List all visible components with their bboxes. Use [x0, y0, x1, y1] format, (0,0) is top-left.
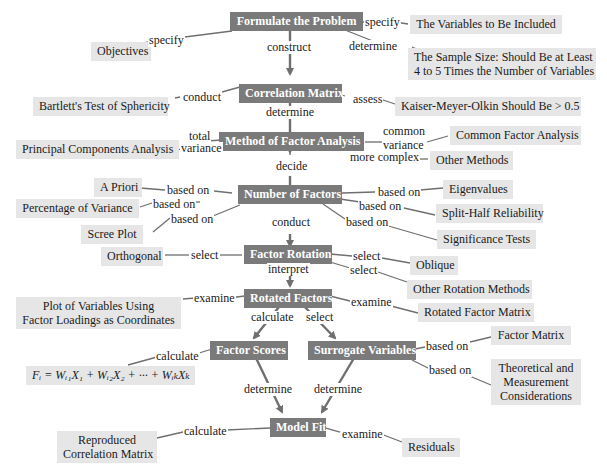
- edge-label-conduct-rotation: conduct: [271, 216, 311, 229]
- node-factor-scores[interactable]: Factor Scores: [210, 341, 288, 360]
- node-method-factor-analysis[interactable]: Method of Factor Analysis: [219, 132, 364, 151]
- node-surrogate-variables[interactable]: Surrogate Variables: [308, 341, 416, 360]
- edge-label-calculate-reproduced: calculate: [183, 425, 228, 438]
- edge-label-select-surrogate: select: [305, 311, 334, 324]
- reproduced-line-2: Correlation Matrix: [63, 447, 151, 461]
- leaf-kmo[interactable]: Kaiser-Meyer-Olkin Should Be > 0.5: [395, 97, 581, 116]
- edge-label-based-on-factor-matrix: based on: [425, 340, 469, 353]
- edge-label-decide: decide: [275, 160, 308, 173]
- edge-label-determine-fit-left: determine: [243, 383, 293, 396]
- plot-line-1: Plot of Variables Using: [22, 299, 175, 313]
- node-number-of-factors[interactable]: Number of Factors: [238, 185, 342, 204]
- edge-label-calculate-formula: calculate: [155, 350, 200, 363]
- edge-label-select-orthogonal: select: [190, 249, 219, 262]
- edge-label-based-on-sig: based on: [345, 216, 389, 229]
- edge-label-specify-objectives: specify: [148, 34, 185, 47]
- leaf-principal-components[interactable]: Principal Components Analysis: [16, 140, 179, 159]
- node-formulate-problem[interactable]: Formulate the Problem: [230, 12, 363, 31]
- edge-label-based-on-theory: based on: [428, 364, 472, 377]
- leaf-theoretical-measurement[interactable]: Theoretical and Measurement Consideratio…: [491, 359, 581, 405]
- edge-label-determine-sample: determine: [348, 40, 398, 53]
- edge-label-calculate-scores: calculate: [250, 311, 295, 324]
- leaf-objectives[interactable]: Objectives: [91, 42, 151, 61]
- edge-label-based-on-scree: based on: [170, 213, 214, 226]
- leaf-factor-matrix[interactable]: Factor Matrix: [491, 326, 571, 345]
- leaf-eigenvalues[interactable]: Eigenvalues: [443, 180, 513, 199]
- leaf-variables-included[interactable]: The Variables to Be Included: [410, 15, 562, 34]
- edge-label-more-complex: more complex: [349, 151, 420, 164]
- theory-line-1: Theoretical and: [497, 361, 575, 375]
- leaf-sample-size[interactable]: The Sample Size: Should Be at Least 4 to…: [408, 48, 596, 80]
- node-model-fit[interactable]: Model Fit: [270, 418, 326, 437]
- theory-line-2: Measurement: [497, 375, 575, 389]
- edge-label-based-on-apriori: based on: [166, 184, 210, 197]
- leaf-other-methods[interactable]: Other Methods: [430, 151, 513, 170]
- sample-size-line-1: The Sample Size: Should Be at Least: [414, 50, 590, 64]
- leaf-oblique[interactable]: Oblique: [410, 256, 458, 275]
- reproduced-line-1: Reproduced: [63, 433, 151, 447]
- edge-label-examine-residuals: examine: [341, 428, 384, 441]
- edge-label-determine-method: determine: [265, 106, 315, 119]
- edge-label-specify-variables: specify: [364, 16, 401, 29]
- edge-label-examine-plot: examine: [193, 292, 236, 305]
- leaf-reproduced-correlation[interactable]: Reproduced Correlation Matrix: [57, 431, 157, 463]
- edge-label-based-on-split: based on: [358, 200, 402, 213]
- edge-label-select-other: select: [349, 264, 378, 277]
- leaf-plot-of-variables[interactable]: Plot of Variables Using Factor Loadings …: [16, 297, 181, 329]
- leaf-other-rotation[interactable]: Other Rotation Methods: [407, 280, 532, 299]
- edge-label-common: common: [382, 125, 426, 138]
- leaf-factor-score-formula[interactable]: Fᵢ = Wᵢ₁X₁ + Wᵢ₂X₂ + ··· + WᵢₖXₖ: [26, 366, 195, 385]
- plot-line-2: Factor Loadings as Coordinates: [22, 313, 175, 327]
- edge-label-variance-total: variance: [180, 142, 223, 155]
- edge-label-construct: construct: [266, 41, 312, 54]
- leaf-bartlett-test[interactable]: Bartlett's Test of Sphericity: [33, 97, 168, 116]
- node-rotated-factors[interactable]: Rotated Factors: [244, 289, 332, 308]
- edge-label-assess: assess: [352, 93, 383, 106]
- leaf-a-priori[interactable]: A Priori: [94, 178, 142, 197]
- leaf-residuals[interactable]: Residuals: [402, 438, 460, 457]
- edge-label-conduct-bartlett: conduct: [182, 91, 222, 104]
- leaf-rotated-factor-matrix[interactable]: Rotated Factor Matrix: [418, 303, 534, 322]
- leaf-orthogonal[interactable]: Orthogonal: [101, 247, 163, 266]
- theory-line-3: Considerations: [497, 389, 575, 403]
- edge-label-determine-fit-right: determine: [313, 383, 363, 396]
- edge-label-based-on-pct: based on: [152, 198, 196, 211]
- edge-label-select-oblique: select: [352, 250, 381, 263]
- node-correlation-matrix[interactable]: Correlation Matrix: [239, 84, 342, 103]
- edge-label-examine-rotated: examine: [350, 296, 393, 309]
- leaf-common-factor-analysis[interactable]: Common Factor Analysis: [450, 126, 581, 145]
- leaf-significance-tests[interactable]: Significance Tests: [437, 230, 536, 249]
- leaf-percentage-variance[interactable]: Percentage of Variance: [16, 199, 139, 218]
- factor-analysis-diagram: Formulate the Problem Correlation Matrix…: [0, 0, 607, 470]
- leaf-split-half[interactable]: Split-Half Reliability: [436, 204, 543, 223]
- sample-size-line-2: 4 to 5 Times the Number of Variables: [414, 64, 590, 78]
- edge-label-interpret: interpret: [267, 263, 310, 276]
- edge-label-based-on-eigen: based on: [377, 186, 421, 199]
- leaf-scree-plot[interactable]: Scree Plot: [81, 225, 143, 244]
